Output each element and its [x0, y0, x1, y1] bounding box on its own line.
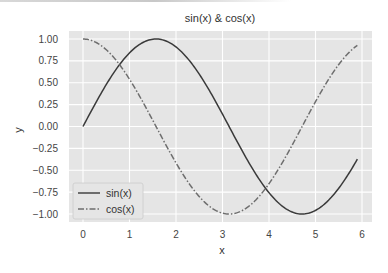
y-tick-label: 0.25	[39, 99, 59, 110]
x-tick-label: 1	[127, 229, 133, 240]
x-tick-label: 0	[80, 229, 86, 240]
x-tick-label: 6	[359, 229, 365, 240]
y-tick-label: 0.50	[39, 77, 59, 88]
y-tick-labels: 1.000.750.500.250.00−0.25−0.50−0.75−1.00	[33, 34, 59, 220]
y-tick-label: 1.00	[39, 34, 59, 45]
x-tick-labels: 0123456	[80, 229, 365, 240]
chart: 1.000.750.500.250.00−0.25−0.50−0.75−1.00…	[0, 0, 388, 273]
y-tick-label: 0.00	[39, 121, 59, 132]
legend-sin-label: sin(x)	[106, 187, 132, 199]
y-tick-label: −0.75	[33, 187, 59, 198]
x-tick-label: 3	[220, 229, 226, 240]
legend-cos-label: cos(x)	[106, 203, 135, 215]
y-tick-label: 0.75	[39, 55, 59, 66]
x-axis-label: x	[219, 244, 225, 256]
legend: sin(x) cos(x)	[73, 183, 143, 219]
x-tick-label: 5	[313, 229, 319, 240]
chart-title: sin(x) & cos(x)	[185, 12, 255, 24]
y-tick-label: −1.00	[33, 209, 59, 220]
x-tick-label: 2	[173, 229, 179, 240]
y-tick-label: −0.50	[33, 165, 59, 176]
y-axis-label: y	[12, 127, 24, 133]
x-tick-label: 4	[266, 229, 272, 240]
y-tick-label: −0.25	[33, 143, 59, 154]
